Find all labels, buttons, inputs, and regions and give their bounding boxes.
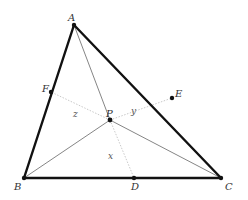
side-AB	[24, 25, 74, 178]
point-C	[219, 176, 223, 180]
segment-PD	[110, 120, 134, 178]
point-F	[49, 90, 53, 94]
segment-BP	[24, 120, 110, 178]
label-D: D	[130, 181, 139, 192]
label-C: C	[225, 181, 233, 192]
point-B	[22, 176, 26, 180]
triangle-diagram: A B C D E F P x y z	[0, 0, 248, 200]
region-label-y: y	[130, 106, 137, 116]
point-D	[132, 176, 136, 180]
region-label-z: z	[72, 109, 78, 119]
point-A	[72, 23, 76, 27]
label-E: E	[174, 88, 183, 99]
segment-CP	[110, 120, 221, 178]
label-A: A	[67, 12, 75, 23]
region-label-x: x	[108, 151, 113, 161]
label-B: B	[13, 181, 21, 192]
point-E	[170, 96, 174, 100]
label-F: F	[41, 83, 50, 94]
label-P: P	[105, 108, 113, 119]
side-AC	[74, 25, 221, 178]
